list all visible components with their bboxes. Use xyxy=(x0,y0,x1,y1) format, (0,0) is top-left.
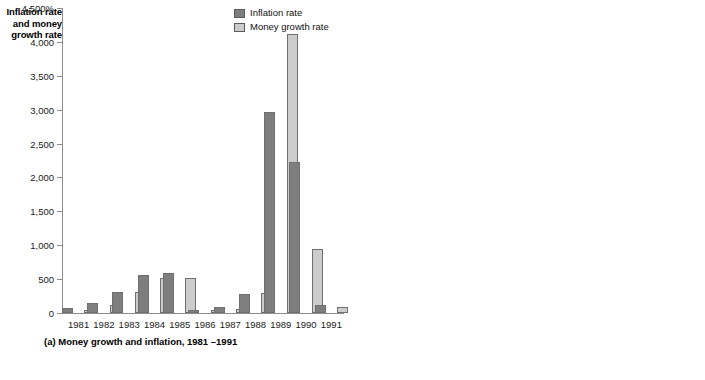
y-tick-mark xyxy=(57,177,62,178)
y-tick-mark xyxy=(57,42,62,43)
bar-inflation-1991 xyxy=(315,305,326,313)
bar-inflation-1984 xyxy=(138,275,149,313)
figure-root: Inflation rate and money growth rate Inf… xyxy=(0,0,705,380)
x-category-label: 1987 xyxy=(220,319,241,330)
x-category-label: 1984 xyxy=(144,319,165,330)
bar-money-1991 xyxy=(337,307,348,313)
y-tick-mark xyxy=(57,8,62,9)
bar-inflation-1982 xyxy=(87,303,98,313)
panel-a-caption: (a) Money growth and inflation, 1981 –19… xyxy=(44,336,237,347)
x-category-label: 1988 xyxy=(245,319,266,330)
chart-panel-b: Inflation rate and money growth rate Inf… xyxy=(352,0,705,380)
x-category-label: 1982 xyxy=(93,319,114,330)
y-tick-label: 4,000 xyxy=(30,36,54,47)
y-tick-mark xyxy=(57,313,62,314)
panel-a-x-axis-line xyxy=(62,313,344,314)
y-tick-mark xyxy=(57,110,62,111)
x-category-label: 1991 xyxy=(321,319,342,330)
panel-a-plot-area: 05001,0001,5002,0002,5003,0003,5004,0004… xyxy=(62,8,344,313)
bar-inflation-1988 xyxy=(239,294,250,313)
y-tick-mark xyxy=(57,211,62,212)
y-tick-label: 1,000 xyxy=(30,240,54,251)
panel-a-y-axis-line xyxy=(62,8,63,313)
bar-inflation-1981 xyxy=(62,308,73,313)
x-category-label: 1985 xyxy=(169,319,190,330)
y-tick-label: 4,500% xyxy=(22,3,54,14)
bar-inflation-1989 xyxy=(264,112,275,313)
bar-inflation-1990 xyxy=(289,162,300,313)
y-tick-label: 3,500 xyxy=(30,70,54,81)
chart-panel-a: Inflation rate and money growth rate Inf… xyxy=(0,0,352,380)
bar-inflation-1987 xyxy=(214,307,225,313)
y-tick-label: 0 xyxy=(49,308,54,319)
y-tick-label: 500 xyxy=(38,274,54,285)
y-tick-label: 2,000 xyxy=(30,172,54,183)
bar-money-1985 xyxy=(185,278,196,313)
x-category-label: 1986 xyxy=(194,319,215,330)
y-tick-label: 2,500 xyxy=(30,138,54,149)
x-category-label: 1990 xyxy=(296,319,317,330)
y-tick-mark xyxy=(57,144,62,145)
y-tick-mark xyxy=(57,76,62,77)
y-tick-label: 3,000 xyxy=(30,104,54,115)
bar-inflation-1985 xyxy=(163,273,174,313)
x-category-label: 1981 xyxy=(68,319,89,330)
y-tick-label: 1,500 xyxy=(30,206,54,217)
bar-money-1990 xyxy=(312,249,323,313)
bar-inflation-1986 xyxy=(188,310,199,313)
y-tick-mark xyxy=(57,279,62,280)
y-tick-mark xyxy=(57,245,62,246)
x-category-label: 1989 xyxy=(270,319,291,330)
bar-inflation-1983 xyxy=(112,292,123,313)
x-category-label: 1983 xyxy=(119,319,140,330)
